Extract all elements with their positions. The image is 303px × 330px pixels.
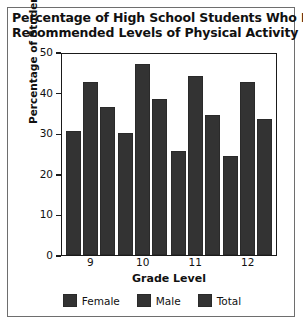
y-tick-label: 0 — [46, 249, 53, 261]
bar-male-grade-10[interactable] — [135, 64, 150, 255]
bar-male-grade-11[interactable] — [188, 76, 203, 255]
bar-female-grade-11[interactable] — [171, 151, 186, 255]
y-tick-label: 30 — [40, 127, 53, 139]
x-tick-label-11: 11 — [189, 256, 202, 268]
bar-group-grade-12 — [223, 54, 272, 255]
y-tick-label: 20 — [40, 168, 53, 180]
legend-swatch-female — [63, 294, 77, 307]
bar-total-grade-9[interactable] — [100, 107, 115, 255]
plot-area — [61, 53, 277, 256]
y-tick-label: 40 — [40, 87, 53, 99]
bar-total-grade-12[interactable] — [257, 119, 272, 255]
bar-group-grade-10 — [118, 54, 167, 255]
legend-item-female[interactable]: Female — [63, 294, 120, 307]
bar-group-grade-9 — [66, 54, 115, 255]
y-tick-label: 50 — [40, 46, 53, 58]
bar-total-grade-11[interactable] — [205, 115, 220, 255]
bar-group-grade-11 — [171, 54, 220, 255]
y-axis-ticks: 01020304050 — [0, 53, 61, 256]
x-tick-label-12: 12 — [241, 256, 254, 268]
x-tick-label-10: 10 — [136, 256, 149, 268]
legend-label-male: Male — [156, 295, 181, 307]
chart-figure: Percentage of High School Students Who M… — [0, 0, 303, 330]
bar-male-grade-12[interactable] — [240, 82, 255, 255]
chart-title-line-2: Recommended Levels of Physical Activity — [12, 25, 292, 40]
bar-female-grade-12[interactable] — [223, 156, 238, 255]
chart-title-line-1: Percentage of High School Students Who M… — [12, 10, 292, 25]
x-tick-label-9: 9 — [87, 256, 94, 268]
y-tick-label: 10 — [40, 208, 53, 220]
chart-title: Percentage of High School Students Who M… — [12, 10, 292, 40]
legend-swatch-male — [137, 294, 151, 307]
x-axis-label: Grade Level — [61, 272, 277, 285]
bar-male-grade-9[interactable] — [83, 82, 98, 255]
bar-total-grade-10[interactable] — [152, 99, 167, 255]
legend-item-total[interactable]: Total — [198, 294, 242, 307]
legend-swatch-total — [198, 294, 212, 307]
bar-female-grade-9[interactable] — [66, 131, 81, 255]
legend-label-female: Female — [82, 295, 120, 307]
bar-female-grade-10[interactable] — [118, 133, 133, 255]
chart-legend: FemaleMaleTotal — [12, 294, 292, 307]
legend-item-male[interactable]: Male — [137, 294, 181, 307]
bar-series-container — [62, 54, 276, 255]
legend-label-total: Total — [217, 295, 242, 307]
